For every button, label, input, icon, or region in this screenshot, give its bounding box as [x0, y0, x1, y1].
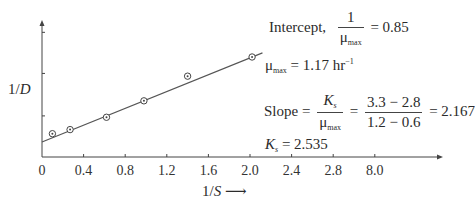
slope-fraction: Ks μmax [317, 93, 343, 132]
ks-annotation: Ks = 2.535 [265, 137, 328, 154]
fit-line [42, 53, 262, 142]
intercept-value: = 0.85 [370, 19, 408, 35]
ks-value: = 2.535 [282, 136, 328, 152]
slope-denominator: μmax [317, 113, 343, 132]
slope-calc-numerator: 3.3 − 2.8 [365, 95, 422, 113]
slope-label: Slope = [264, 103, 310, 119]
data-point [141, 98, 147, 104]
data-point [249, 54, 255, 60]
max-subscript: max [348, 38, 362, 47]
x-tick-label: 2.4 [283, 163, 301, 178]
point-center-dot-icon [143, 100, 145, 102]
x-tick-label: 0 [39, 163, 46, 178]
s-subscript: s [334, 101, 337, 110]
mu-symbol: μ [319, 114, 327, 130]
slope-equals: = [350, 103, 358, 119]
y-axis-label: 1/D [8, 81, 31, 98]
x-tick-label: 2.8 [324, 163, 342, 178]
slope-value: = 2.167 [429, 103, 475, 119]
x-tick-label: 1.2 [158, 163, 176, 178]
data-point [67, 126, 73, 132]
k-symbol: K [323, 92, 333, 108]
x-tick-label: 1.6 [200, 163, 218, 178]
intercept-annotation: Intercept, 1 μmax = 0.85 [269, 10, 409, 47]
x-tick-label: 2.0 [241, 163, 259, 178]
x-axis-arrow-icon [437, 155, 443, 160]
x-axis-label-text: 1/S [202, 183, 221, 199]
intercept-denominator: μmax [338, 28, 364, 47]
data-point [184, 73, 190, 79]
intercept-fraction: 1 μmax [338, 10, 364, 47]
x-tick-label: 0.8 [116, 163, 134, 178]
slope-numerator: Ks [317, 93, 343, 113]
slope-calc-fraction: 3.3 − 2.8 1.2 − 0.6 [365, 95, 422, 130]
point-center-dot-icon [105, 116, 107, 118]
per-hour-superscript: −1 [345, 57, 354, 66]
mumax-value: = 1.17 hr [291, 57, 346, 73]
intercept-numerator: 1 [338, 10, 364, 28]
data-point [103, 114, 109, 120]
max-subscript: max [273, 66, 287, 75]
data-points [49, 54, 255, 137]
point-center-dot-icon [69, 129, 71, 131]
x-axis-arrow-icon: ⟶ [225, 183, 247, 199]
slope-calc-denominator: 1.2 − 0.6 [365, 113, 422, 130]
point-center-dot-icon [51, 133, 53, 135]
max-subscript: max [327, 123, 341, 132]
point-center-dot-icon [187, 75, 189, 77]
x-ticks: 00.40.81.21.62.02.42.88.0 [39, 154, 384, 178]
intercept-label: Intercept, [269, 19, 326, 35]
x-tick-label: 0.4 [75, 163, 93, 178]
slope-annotation: Slope = Ks μmax = 3.3 − 2.8 1.2 − 0.6 = … [264, 93, 475, 132]
y-axis-arrow-icon [40, 20, 45, 26]
mu-symbol: μ [265, 57, 273, 73]
k-symbol: K [265, 136, 275, 152]
regression-line [42, 53, 262, 142]
y-axis-label-text: 1/D [8, 81, 31, 97]
mu-symbol: μ [340, 29, 348, 45]
x-tick-label: 8.0 [366, 163, 384, 178]
point-center-dot-icon [251, 56, 253, 58]
mumax-annotation: μmax = 1.17 hr−1 [265, 58, 354, 75]
data-point [49, 131, 55, 137]
s-subscript: s [275, 145, 278, 154]
x-axis-label: 1/S ⟶ [202, 182, 246, 200]
